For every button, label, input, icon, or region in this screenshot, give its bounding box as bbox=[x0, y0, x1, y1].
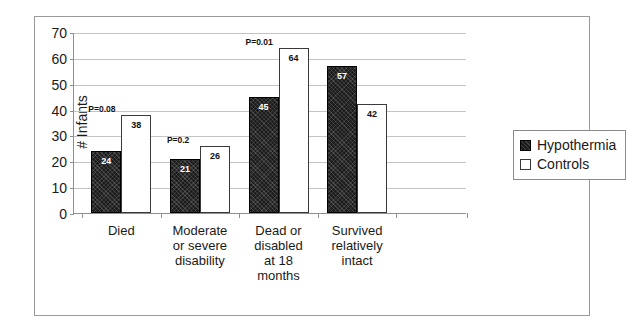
y-axis-tick-label: 20 bbox=[51, 155, 67, 169]
bar-value-label: 45 bbox=[250, 103, 278, 112]
x-axis-category-line: Dead or bbox=[239, 223, 318, 238]
x-axis-tick-mark bbox=[318, 213, 319, 218]
x-axis-category-label: Dead ordisabledat 18months bbox=[239, 223, 318, 283]
bar-value-label: 26 bbox=[201, 152, 229, 161]
bar-hypothermia-3: 57 bbox=[327, 66, 357, 213]
y-axis-tick-label: 30 bbox=[51, 129, 67, 143]
x-axis-category-line: intact bbox=[318, 253, 397, 268]
legend-swatch-icon bbox=[520, 159, 531, 170]
gridline bbox=[74, 59, 466, 60]
bar-controls-1: 26 bbox=[200, 146, 230, 213]
bar-controls-0: 38 bbox=[121, 115, 151, 213]
legend-item-label: Controls bbox=[537, 157, 589, 172]
p-value-label: P=0.08 bbox=[88, 105, 115, 114]
p-value-label: P=0.2 bbox=[167, 136, 189, 145]
bar-hypothermia-1: 21 bbox=[170, 159, 200, 213]
y-axis-tick-mark bbox=[70, 59, 74, 60]
y-axis-tick-label: 40 bbox=[51, 104, 67, 118]
y-axis-tick-label: 0 bbox=[59, 207, 67, 221]
bar-value-label: 38 bbox=[122, 121, 150, 130]
legend-item-controls: Controls bbox=[520, 155, 616, 174]
legend-item-hypothermia: Hypothermia bbox=[520, 136, 616, 155]
x-axis-category-line: or severe bbox=[161, 238, 240, 253]
x-axis-tick-mark bbox=[82, 213, 83, 218]
bar-controls-3: 42 bbox=[357, 104, 387, 213]
x-axis-tick-mark bbox=[161, 213, 162, 218]
y-axis-tick-mark bbox=[70, 33, 74, 34]
x-axis-category-line: Survived bbox=[318, 223, 397, 238]
y-axis-tick-label: 10 bbox=[51, 181, 67, 195]
x-axis-category-line: months bbox=[239, 268, 318, 283]
bar-hypothermia-2: 45 bbox=[249, 97, 279, 213]
bar-controls-2: 64 bbox=[279, 48, 309, 213]
x-axis-tick-mark bbox=[396, 213, 397, 218]
x-axis-category-label: Moderateor severedisability bbox=[161, 223, 240, 268]
x-axis-tick-mark bbox=[239, 213, 240, 218]
y-axis-tick-mark bbox=[70, 188, 74, 189]
legend-swatch-icon bbox=[520, 140, 531, 151]
bar-value-label: 21 bbox=[171, 165, 199, 174]
y-axis-tick-mark bbox=[70, 136, 74, 137]
x-axis-category-line: disability bbox=[161, 253, 240, 268]
y-axis-tick-mark bbox=[70, 214, 74, 215]
bar-value-label: 57 bbox=[328, 72, 356, 81]
y-axis-tick-label: 50 bbox=[51, 78, 67, 92]
x-axis-category-label: Died bbox=[82, 223, 161, 238]
chart-frame: # Infants 706050403020100 24382126456457… bbox=[34, 16, 590, 316]
x-axis-category-line: disabled bbox=[239, 238, 318, 253]
bar-value-label: 64 bbox=[280, 54, 308, 63]
plot-area: 706050403020100 2438212645645742 P=0.08P… bbox=[73, 33, 466, 214]
bar-value-label: 42 bbox=[358, 110, 386, 119]
y-axis-tick-mark bbox=[70, 162, 74, 163]
x-axis-category-label: Survivedrelativelyintact bbox=[318, 223, 397, 268]
x-axis-tick-mark bbox=[467, 213, 468, 218]
gridline bbox=[74, 33, 466, 34]
gridline bbox=[74, 85, 466, 86]
y-axis-tick-mark bbox=[70, 85, 74, 86]
y-axis-tick-label: 70 bbox=[51, 26, 67, 40]
p-value-label: P=0.01 bbox=[246, 38, 273, 47]
x-axis-category-line: at 18 bbox=[239, 253, 318, 268]
x-axis-category-line: relatively bbox=[318, 238, 397, 253]
bar-value-label: 24 bbox=[92, 157, 120, 166]
x-axis-category-line: Died bbox=[82, 223, 161, 238]
y-axis-tick-mark bbox=[70, 111, 74, 112]
legend-item-label: Hypothermia bbox=[537, 138, 616, 153]
y-axis-tick-label: 60 bbox=[51, 52, 67, 66]
chart-legend: HypothermiaControls bbox=[513, 130, 626, 180]
bar-hypothermia-0: 24 bbox=[91, 151, 121, 213]
x-axis-category-line: Moderate bbox=[161, 223, 240, 238]
